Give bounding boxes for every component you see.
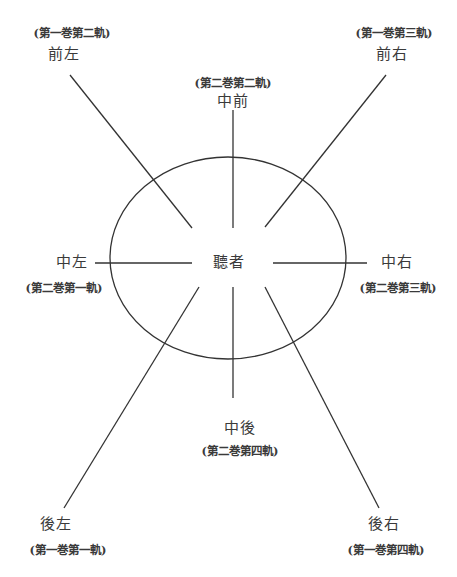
line-rear-right	[265, 287, 379, 508]
rear-left-track: (第一巻第一軌)	[30, 545, 107, 557]
rear-right-name: 後右	[368, 517, 400, 532]
front-center-track: (第二巻第二軌)	[195, 78, 272, 90]
line-front-right	[265, 75, 386, 227]
center-right-track: (第二巻第三軌)	[360, 283, 437, 295]
front-center-name: 中前	[217, 94, 249, 109]
rear-left-name: 後左	[40, 517, 72, 532]
front-right-name: 前右	[376, 47, 408, 62]
rear-center-name: 中後	[224, 421, 256, 436]
front-left-name: 前左	[48, 47, 80, 62]
rear-right-track: (第一巻第四軌)	[348, 545, 425, 557]
line-rear-left	[64, 287, 199, 508]
center-left-name: 中左	[56, 255, 88, 270]
rear-center-track: (第二巻第四軌)	[202, 446, 279, 458]
front-right-track: (第一巻第三軌)	[356, 28, 433, 40]
center-right-name: 中右	[381, 255, 413, 270]
front-left-track: (第一巻第二軌)	[34, 28, 111, 40]
center-left-track: (第二巻第一軌)	[26, 283, 103, 295]
line-front-left	[70, 75, 192, 228]
listener-label: 聽者	[213, 255, 245, 270]
